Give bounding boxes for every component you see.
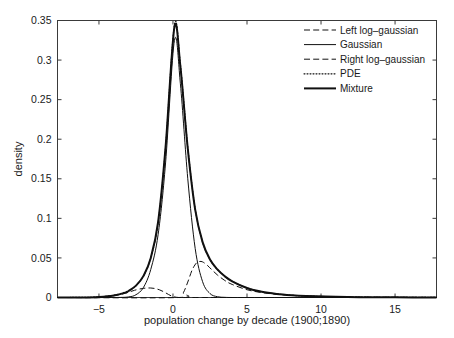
x-axis-label: population change by decade (1900;1890)	[144, 314, 350, 326]
x-tick-label: 0	[170, 303, 176, 315]
x-tick-label: 5	[244, 303, 250, 315]
x-tick-label: 15	[389, 303, 401, 315]
x-tick-label: −5	[93, 303, 105, 315]
density-chart: 00.050.10.150.20.250.30.35 −5051015 dens…	[0, 0, 454, 338]
y-tick-label: 0.2	[37, 133, 52, 145]
y-tick-label: 0.35	[31, 14, 52, 26]
legend-label: PDE	[340, 68, 361, 79]
y-tick-label: 0.25	[31, 93, 52, 105]
y-tick-label: 0.1	[37, 212, 52, 224]
legend-label: Gaussian	[340, 39, 382, 50]
y-axis-label: density	[12, 141, 24, 176]
y-tick-label: 0.15	[31, 172, 52, 184]
y-tick-label: 0	[46, 291, 52, 303]
y-tick-label: 0.05	[31, 252, 52, 264]
figure-container: 00.050.10.150.20.250.30.35 −5051015 dens…	[0, 0, 454, 338]
legend-label: Left log–gaussian	[340, 25, 418, 36]
y-tick-label: 0.3	[37, 54, 52, 66]
figure-background	[0, 0, 454, 338]
legend-label: Right log–gaussian	[340, 54, 425, 65]
x-tick-label: 10	[315, 303, 327, 315]
legend-label: Mixture	[340, 83, 373, 94]
